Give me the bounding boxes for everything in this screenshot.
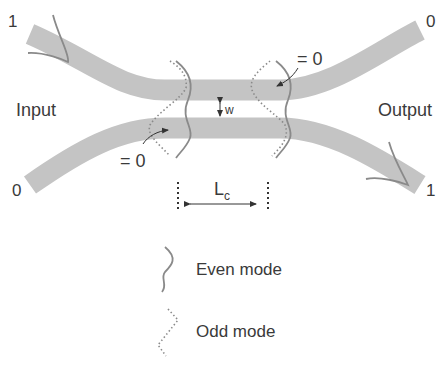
gap-label: w xyxy=(224,103,234,117)
coupling-length-label: Lc xyxy=(214,179,230,203)
coupler-diagram: w 1 0 0 1 Input Output = 0 = 0 Lc Even m… xyxy=(0,0,447,372)
legend: Even mode Odd mode xyxy=(158,247,282,356)
output-bottom-port-label: 1 xyxy=(426,181,435,200)
input-label: Input xyxy=(16,100,56,120)
odd-mode-legend-icon xyxy=(158,309,178,356)
eq-zero-top: = 0 xyxy=(297,49,323,69)
input-top-port-label: 1 xyxy=(8,12,17,31)
eq-zero-bottom: = 0 xyxy=(120,151,146,171)
legend-even-label: Even mode xyxy=(196,260,282,279)
odd-mode-left xyxy=(149,61,186,156)
bottom-waveguide xyxy=(30,128,420,185)
output-top-port-label: 0 xyxy=(426,12,435,31)
top-waveguide xyxy=(30,30,420,90)
even-mode-right xyxy=(276,61,291,158)
odd-mode-right xyxy=(251,61,286,156)
even-mode-left xyxy=(176,61,191,158)
input-bottom-port-label: 0 xyxy=(12,181,21,200)
legend-odd-label: Odd mode xyxy=(196,322,275,341)
even-mode-legend-icon xyxy=(162,247,173,292)
output-label: Output xyxy=(378,100,432,120)
